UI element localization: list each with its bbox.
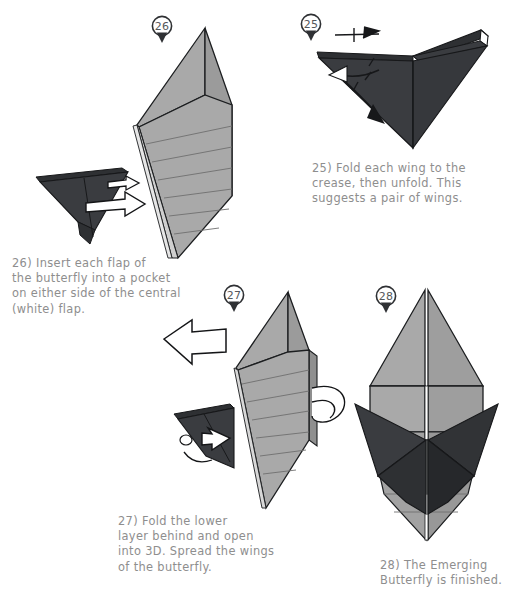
step-26-diagram: 26 xyxy=(0,0,268,260)
step-marker-27: 27 xyxy=(224,285,243,312)
step-28-diagram: 28 xyxy=(340,282,530,552)
step-marker-26-label: 26 xyxy=(155,20,169,33)
caption-step-25: 25) Fold each wing to the crease, then u… xyxy=(312,161,527,207)
step-marker-27-label: 27 xyxy=(227,289,241,302)
step-25-diagram: 25 xyxy=(285,8,532,156)
caption-step-27: 27) Fold the lower layer behind and open… xyxy=(118,514,328,575)
instruction-sheet: 26 26) Insert each flap of the butterfly… xyxy=(0,0,532,603)
step-figure-28: 28 xyxy=(340,282,530,552)
folded-paper-body-27 xyxy=(234,292,317,508)
step-marker-25-label: 25 xyxy=(304,18,318,31)
step-figure-25: 25 xyxy=(285,8,532,156)
folded-paper-body-26 xyxy=(133,28,232,258)
step-marker-26: 26 xyxy=(152,16,171,43)
step-figure-26: 26 xyxy=(0,0,268,260)
caption-step-28: 28) The Emerging Butterfly is finished. xyxy=(380,558,532,588)
folded-paper-body-25 xyxy=(317,30,488,148)
step-figure-27: 27 xyxy=(178,280,353,520)
step-27-diagram: 27 xyxy=(178,280,353,520)
pull-left-arrow xyxy=(164,320,226,364)
fold-and-unfold-symbol xyxy=(335,27,379,42)
step-marker-28: 28 xyxy=(376,286,395,313)
step-marker-25: 25 xyxy=(301,14,320,41)
step-marker-28-label: 28 xyxy=(379,290,393,303)
